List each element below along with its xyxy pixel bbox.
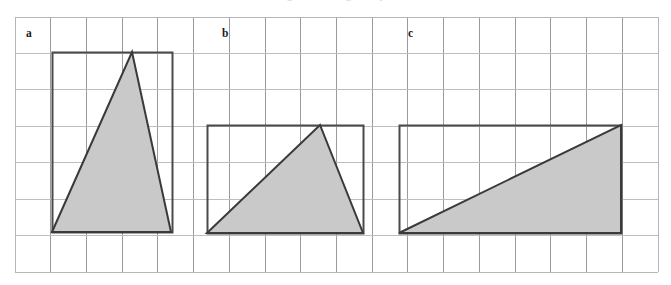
grid-and-shapes-canvas: [0, 0, 671, 285]
panel-label-b: b: [222, 28, 228, 40]
figure-root: a triangle and rectangle comparison a b …: [0, 0, 671, 285]
panel-label-c: c: [408, 28, 413, 40]
triangle-b: [207, 125, 363, 233]
triangle-c: [399, 125, 621, 233]
panel-label-a: a: [26, 28, 32, 40]
triangle-a: [52, 52, 171, 232]
